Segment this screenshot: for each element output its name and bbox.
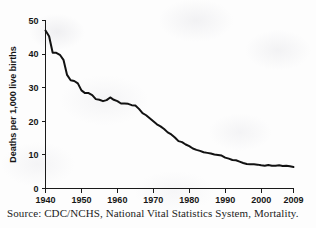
- x-tick-label: 1940: [35, 195, 55, 205]
- y-tick-label: 30: [28, 83, 38, 93]
- y-axis-ticks: 01020304050: [28, 16, 45, 194]
- x-tick-label: 2000: [251, 195, 271, 205]
- line-chart-plot: 01020304050 1940195019601970198019902000…: [0, 0, 316, 228]
- x-tick-label: 1970: [143, 195, 163, 205]
- axis-lines: [46, 21, 294, 189]
- data-series-line: [46, 31, 294, 167]
- x-axis-ticks: 19401950196019701980199020002009: [35, 189, 303, 205]
- x-tick-label: 1990: [215, 195, 235, 205]
- y-tick-label: 20: [28, 117, 38, 127]
- chart-figure: 01020304050 1940195019601970198019902000…: [0, 0, 316, 228]
- source-note: Source: CDC/NCHS, National Vital Statist…: [7, 207, 299, 219]
- x-tick-label: 1950: [71, 195, 91, 205]
- x-tick-label: 2009: [283, 195, 303, 205]
- x-tick-label: 1980: [179, 195, 199, 205]
- y-tick-label: 10: [28, 150, 38, 160]
- y-tick-label: 0: [33, 184, 38, 194]
- y-axis-label: Deaths per 1,000 live births: [8, 46, 18, 163]
- y-tick-label: 40: [28, 49, 38, 59]
- x-tick-label: 1960: [107, 195, 127, 205]
- y-tick-label: 50: [28, 16, 38, 26]
